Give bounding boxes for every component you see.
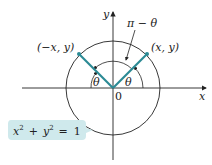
point-right <box>145 52 149 56</box>
point-left <box>77 52 81 56</box>
angle-right-label: θ <box>125 76 132 89</box>
right-angle-arc <box>134 67 143 88</box>
origin-label: 0 <box>115 90 122 103</box>
angle-left-label: θ <box>93 76 100 89</box>
eq-x-exp: 2 <box>19 124 23 132</box>
eq-equals: = <box>59 125 68 138</box>
axis-x-label: x <box>199 90 206 103</box>
point-left-label: (−x, y) <box>37 41 74 54</box>
eq-plus: + <box>29 125 38 138</box>
supplement-pointer <box>126 30 135 60</box>
unit-circle-diagram: y x 0 (x, y) (−x, y) θ θ π − θ x2+y2=1 <box>0 0 212 165</box>
point-right-label: (x, y) <box>151 41 179 54</box>
eq-rhs: 1 <box>74 125 81 138</box>
supplement-label: π − θ <box>126 17 157 30</box>
equation-callout: x2+y2=1 <box>8 120 93 140</box>
axis-y-label: y <box>102 8 110 21</box>
eq-y-exp: 2 <box>49 124 53 132</box>
